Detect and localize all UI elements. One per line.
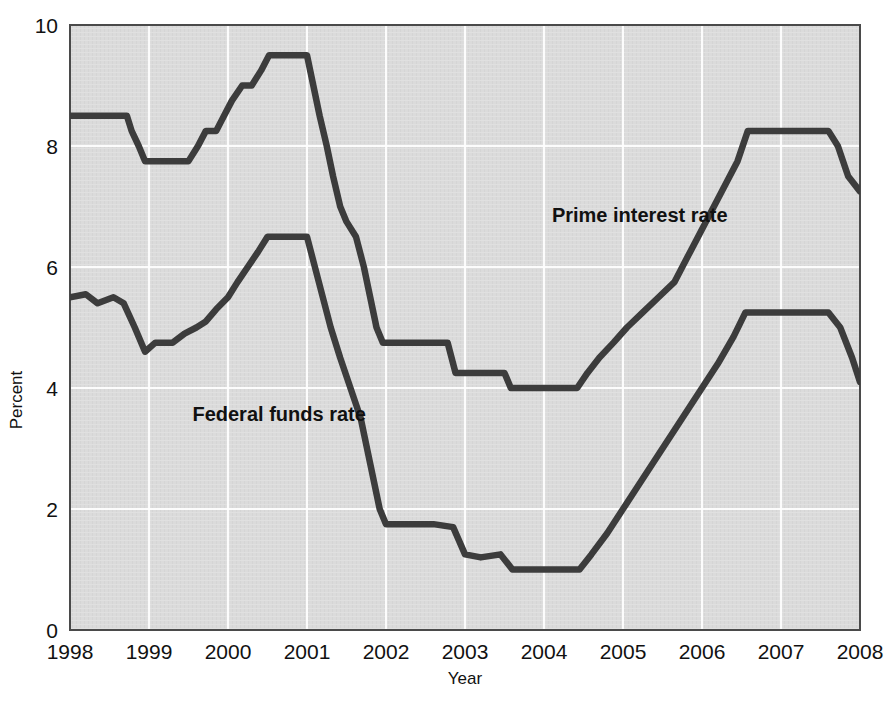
series-label-federal-funds-rate: Federal funds rate	[192, 403, 365, 425]
y-tick-label: 6	[46, 256, 58, 279]
x-tick-label: 1999	[126, 640, 173, 663]
y-axis-title: Percent	[7, 370, 26, 429]
y-tick-label: 4	[46, 377, 58, 400]
x-tick-label: 2007	[758, 640, 805, 663]
y-tick-label: 10	[35, 14, 58, 37]
x-tick-label: 2006	[679, 640, 726, 663]
x-tick-label: 2005	[600, 640, 647, 663]
y-tick-label: 8	[46, 135, 58, 158]
series-label-prime-interest-rate: Prime interest rate	[552, 204, 728, 226]
x-tick-label: 2002	[363, 640, 410, 663]
x-tick-label: 1998	[47, 640, 94, 663]
x-tick-label: 2003	[442, 640, 489, 663]
x-axis-tick-labels: 1998199920002001200220032004200520062007…	[47, 640, 884, 663]
x-axis-title: Year	[448, 669, 483, 688]
x-tick-label: 2004	[521, 640, 568, 663]
x-tick-label: 2001	[284, 640, 331, 663]
chart-figure: 1998199920002001200220032004200520062007…	[0, 0, 886, 709]
y-tick-label: 2	[46, 498, 58, 521]
interest-rates-line-chart: 1998199920002001200220032004200520062007…	[0, 0, 886, 709]
y-axis-tick-labels: 0246810	[35, 14, 59, 642]
x-tick-label: 2000	[205, 640, 252, 663]
x-tick-label: 2008	[837, 640, 884, 663]
y-tick-label: 0	[46, 619, 58, 642]
